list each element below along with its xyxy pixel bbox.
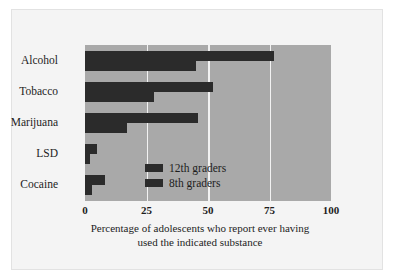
bar xyxy=(85,113,198,123)
bar xyxy=(85,144,97,154)
bar xyxy=(85,123,127,133)
x-tick-label: 0 xyxy=(82,204,88,216)
legend-label: 12th graders xyxy=(169,162,226,174)
x-tick-label: 25 xyxy=(141,204,152,216)
bar xyxy=(85,82,213,92)
category-label: Cocaine xyxy=(0,178,58,190)
x-axis-caption-line-1: Percentage of adolescents who report eve… xyxy=(50,222,350,236)
bar xyxy=(85,92,154,102)
x-tick-label: 75 xyxy=(264,204,275,216)
legend-swatch-icon xyxy=(145,164,163,172)
x-tick-label: 50 xyxy=(203,204,214,216)
bar-group xyxy=(0,51,394,71)
legend-item: 12th graders xyxy=(145,160,226,175)
bar xyxy=(85,185,92,195)
bar xyxy=(85,51,274,61)
x-axis-caption-line-2: used the indicated substance xyxy=(50,236,350,250)
legend-item: 8th graders xyxy=(145,175,226,190)
x-axis-caption: Percentage of adolescents who report eve… xyxy=(50,222,350,249)
x-tick-label: 100 xyxy=(323,204,340,216)
legend: 12th graders8th graders xyxy=(145,160,226,190)
legend-label: 8th graders xyxy=(169,177,220,189)
category-label: Marijuana xyxy=(0,116,58,128)
category-label: Tobacco xyxy=(0,85,58,97)
bar xyxy=(85,175,105,185)
legend-swatch-icon xyxy=(145,179,163,187)
bar-chart: AlcoholTobaccoMarijuanaLSDCocaine 025507… xyxy=(0,0,394,279)
bar-group xyxy=(0,113,394,133)
category-label: Alcohol xyxy=(0,54,58,66)
bar xyxy=(85,154,90,164)
bar xyxy=(85,61,196,71)
bar-group xyxy=(0,82,394,102)
category-label: LSD xyxy=(0,147,58,159)
